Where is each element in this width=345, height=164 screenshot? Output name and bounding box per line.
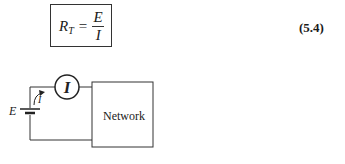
current-label: I <box>37 94 42 105</box>
circuit-diagram: I I <box>0 0 345 164</box>
ammeter-icon: I <box>55 75 79 99</box>
battery-icon <box>20 109 40 113</box>
network-label: Network <box>103 109 145 124</box>
wire-bottom <box>30 115 92 140</box>
source-label: E <box>9 104 16 119</box>
